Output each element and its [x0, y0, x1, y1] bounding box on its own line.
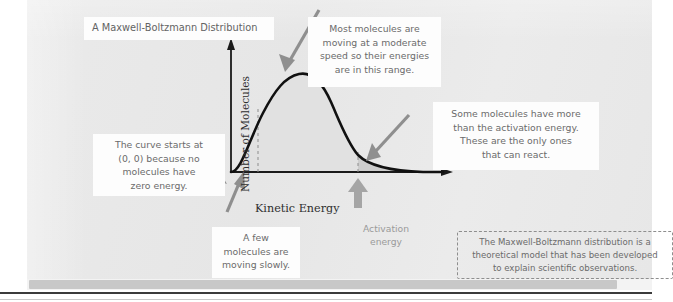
- chart-title-note: A Maxwell-Boltzmann Distribution: [84, 17, 274, 40]
- slide-canvas: Kinetic Energy Number of Molecules Activ…: [27, 0, 652, 279]
- activation-energy-label: Activation energy: [345, 222, 427, 248]
- x-axis-label: Kinetic Energy: [255, 202, 339, 215]
- note-most-molecules: Most molecules are moving at a moderate …: [308, 17, 441, 87]
- bottom-divider: [0, 292, 652, 294]
- arrow-down-left-icon-some: [366, 115, 409, 161]
- note-some-molecules: Some molecules have more than the activa…: [433, 102, 599, 170]
- note-a-few-molecules: A few molecules are moving slowly.: [212, 227, 300, 278]
- horizontal-scrollbar-thumb[interactable]: [29, 280, 617, 289]
- arrow-up-icon-activation: [348, 178, 368, 208]
- bottom-divider-secondary: [0, 299, 652, 300]
- note-curve-start: The curve starts at (0, 0) because no mo…: [93, 134, 225, 196]
- y-axis-label: Number of Molecules: [239, 76, 251, 192]
- note-definition: The Maxwell-Boltzmann distribution is a …: [457, 231, 673, 279]
